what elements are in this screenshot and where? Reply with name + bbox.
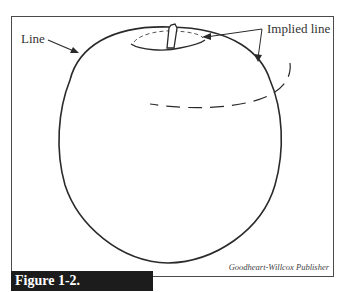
figure-caption: Figure 1-2.: [11, 271, 153, 291]
publisher-credit: Goodheart-Willcox Publisher: [229, 262, 329, 272]
implied-line-arrow-2: [258, 29, 262, 58]
implied-line-label: Implied line: [267, 21, 330, 37]
implied-line-arrowhead-1: [202, 33, 211, 40]
apple-outline: [59, 27, 281, 263]
apple-illustration: [0, 0, 349, 292]
implied-line-dashed: [150, 63, 290, 108]
stem: [167, 24, 177, 48]
line-label: Line: [21, 31, 45, 47]
